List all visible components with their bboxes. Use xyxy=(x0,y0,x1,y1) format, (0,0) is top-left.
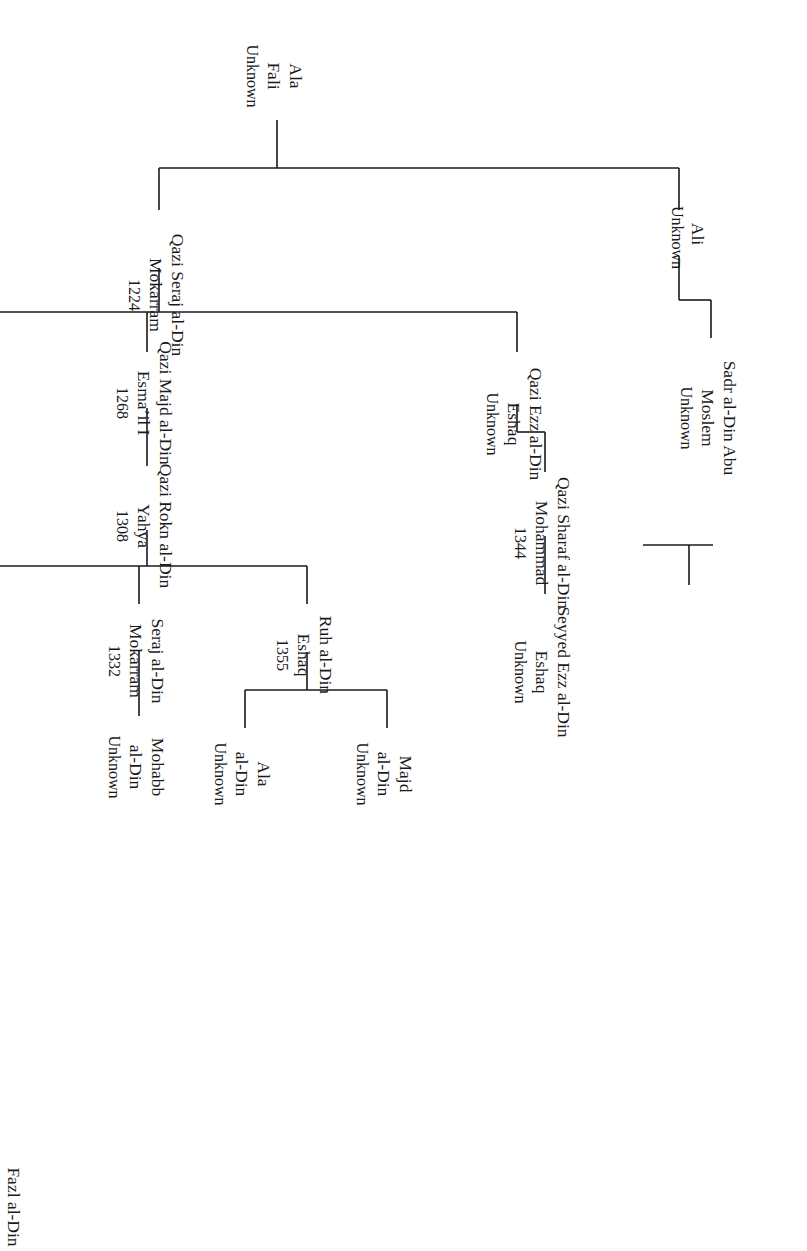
genealogy-figure: Ala Fali Unknown Ali Unknown Sadr al-Din… xyxy=(0,0,807,1230)
tree-connector-lines-main xyxy=(0,0,807,1230)
